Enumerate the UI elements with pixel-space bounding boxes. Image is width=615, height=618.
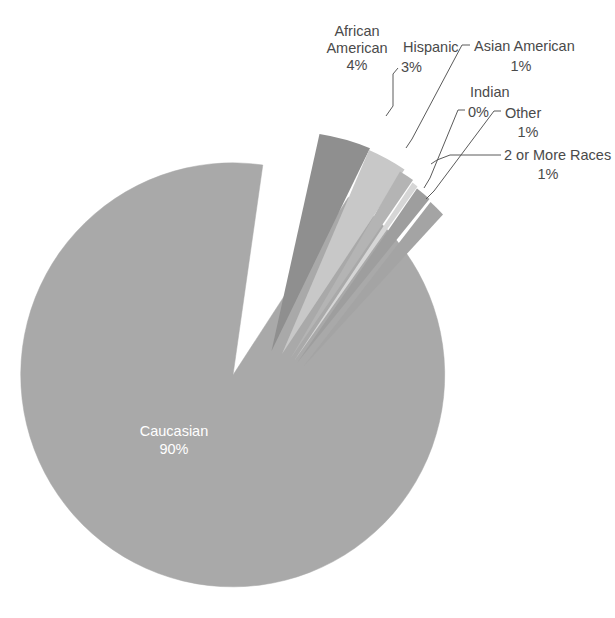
pie-slices xyxy=(21,134,445,587)
label-hispanic-percent: 3% xyxy=(401,59,422,75)
label-other-name: Other xyxy=(505,105,541,121)
leader-line-two-or-more xyxy=(431,155,501,164)
label-indian-name: Indian xyxy=(470,84,510,100)
leader-line-hispanic xyxy=(386,68,398,116)
pie-chart-figure: African American 4% Hispanic 3% Asian Am… xyxy=(0,0,615,618)
label-hispanic-name: Hispanic xyxy=(403,39,459,55)
label-african-american-line1: African xyxy=(334,23,379,39)
label-indian-percent: 0% xyxy=(468,104,489,120)
label-caucasian-percent: 90% xyxy=(159,441,188,457)
label-caucasian-name: Caucasian xyxy=(140,423,209,439)
label-other-percent: 1% xyxy=(518,124,539,140)
label-asian-american-percent: 1% xyxy=(511,58,532,74)
label-asian-american-name: Asian American xyxy=(474,38,575,54)
label-african-american-percent: 4% xyxy=(347,57,368,73)
pie-chart-svg: African American 4% Hispanic 3% Asian Am… xyxy=(0,0,615,618)
label-two-or-more-races-percent: 1% xyxy=(538,166,559,182)
label-african-american-line2: American xyxy=(326,40,387,56)
label-two-or-more-races-name: 2 or More Races xyxy=(504,147,611,163)
